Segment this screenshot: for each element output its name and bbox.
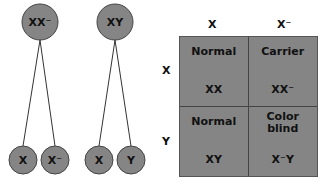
genotype-label: X⁻Y	[249, 153, 318, 166]
gamete-allele: X	[95, 154, 104, 167]
parent-father: XY	[97, 4, 133, 40]
phenotype-label: Color blind	[263, 111, 303, 135]
punnett-cell: Carrier XX⁻	[249, 37, 318, 107]
phenotype-label: Normal	[180, 116, 248, 128]
gamete-allele: Y	[126, 154, 136, 167]
genotype-label: XX	[180, 83, 248, 96]
punnett-cell: Color blind X⁻Y	[249, 107, 318, 177]
genotype-label: XY	[180, 153, 248, 166]
gamete-allele: X⁻	[48, 154, 62, 167]
parent-mother: XX⁻	[22, 4, 58, 40]
gamete-circle: X	[9, 146, 37, 174]
parent-genotype: XX⁻	[29, 16, 52, 29]
gamete-circle: X	[85, 146, 113, 174]
branch-line	[115, 40, 131, 146]
punnett-square: Normal XX Carrier XX⁻ Normal XY Color bl…	[179, 36, 318, 177]
gamete-allele: X	[19, 154, 28, 167]
branch-line	[99, 40, 115, 146]
gamete-circle: Y	[117, 146, 145, 174]
genotype-label: XX⁻	[249, 83, 318, 96]
punnett-col-header: X⁻	[277, 18, 291, 31]
gamete-circle: X⁻	[41, 146, 69, 174]
punnett-cell: Normal XY	[180, 107, 249, 177]
branch-line	[23, 40, 40, 146]
parent-genotype: XY	[107, 16, 124, 29]
branch-line	[40, 40, 55, 146]
phenotype-label: Carrier	[249, 46, 318, 58]
phenotype-label: Normal	[180, 46, 248, 58]
punnett-row-header: Y	[162, 135, 170, 148]
punnett-row-header: X	[162, 64, 170, 77]
punnett-col-header: X	[208, 18, 216, 31]
punnett-cell: Normal XX	[180, 37, 249, 107]
